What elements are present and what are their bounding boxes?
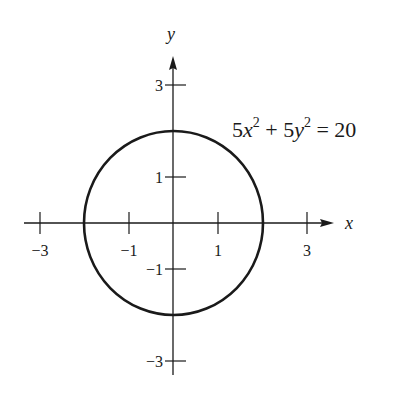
coordinate-plane: −3 −1 1 3 3 1 −1 −3 x y 5x2 + 5y2 = 20 (0, 0, 413, 395)
y-tick-label: 3 (155, 77, 163, 94)
y-tick-label: −1 (146, 261, 163, 278)
y-axis-label: y (165, 24, 175, 44)
y-tick-label: 1 (155, 169, 163, 186)
svg-text:5x2 + 5y2 = 20: 5x2 + 5y2 = 20 (232, 115, 356, 142)
x-tick-label: −3 (31, 242, 48, 259)
x-axis-arrow-icon (320, 219, 334, 227)
x-tick-label: −1 (120, 242, 137, 259)
y-tick-label: −3 (146, 353, 163, 370)
x-tick-label: 3 (303, 242, 311, 259)
y-axis-arrow-icon (169, 56, 177, 70)
equation-label: 5x2 + 5y2 = 20 (232, 115, 356, 142)
x-tick-label: 1 (214, 242, 222, 259)
x-axis-label: x (344, 213, 353, 233)
circle-graph-figure: −3 −1 1 3 3 1 −1 −3 x y 5x2 + 5y2 = 20 (0, 0, 413, 395)
